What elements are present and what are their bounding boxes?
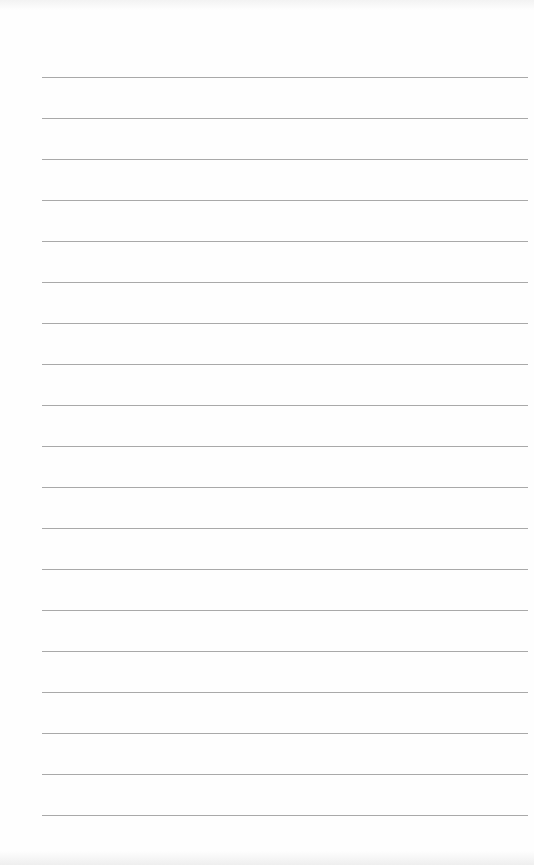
ruled-line [42,651,528,652]
ruled-line [42,200,528,201]
ruled-line [42,405,528,406]
ruled-line [42,774,528,775]
ruled-line [42,528,528,529]
ruled-line [42,569,528,570]
ruled-line [42,282,528,283]
ruled-line [42,241,528,242]
ruled-line [42,77,528,78]
ruled-line [42,364,528,365]
ruled-line [42,487,528,488]
ruled-line [42,159,528,160]
top-edge-shadow [0,0,534,10]
ruled-line [42,692,528,693]
ruled-line [42,323,528,324]
ruled-line [42,733,528,734]
bottom-edge-shadow [0,851,534,865]
ruled-line [42,118,528,119]
ruled-line [42,815,528,816]
ruled-line [42,446,528,447]
lined-paper-page [0,0,534,865]
ruled-line [42,610,528,611]
